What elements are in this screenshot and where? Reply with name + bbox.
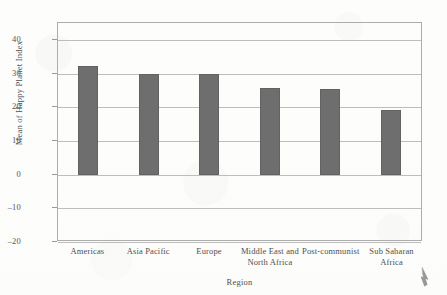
y-axis-tick-label: 40 (12, 35, 21, 44)
bar[interactable] (139, 74, 159, 174)
bar-slot (300, 23, 361, 240)
x-axis-category-line: Europe (179, 246, 240, 257)
x-axis-category-label: Europe (179, 246, 240, 268)
x-axis-tick-labels: AmericasAsia PacificEuropeMiddle East an… (57, 246, 422, 268)
bar[interactable] (199, 74, 219, 174)
bar-slot (179, 23, 240, 240)
x-axis-category-line: Asia Pacific (118, 246, 179, 257)
x-axis-category-label: Asia Pacific (118, 246, 179, 268)
x-axis-category-line: Africa (361, 257, 422, 268)
y-axis-tick-label: –10 (8, 203, 21, 212)
x-axis-category-label: Post-communist (300, 246, 361, 268)
x-axis-category-line: Middle East and (239, 246, 300, 257)
bar[interactable] (320, 89, 340, 175)
bar-slot (240, 23, 301, 240)
y-axis-tick-mark (52, 241, 57, 242)
bar-chart-figure: Mean of Happy Planet Index 403020100–10–… (0, 0, 447, 295)
y-axis-tick-label: 20 (12, 102, 21, 111)
bar[interactable] (78, 66, 98, 174)
gridline (58, 242, 421, 243)
y-axis-tick-label: 0 (17, 170, 21, 179)
bar-slot (119, 23, 180, 240)
bar-slot (58, 23, 119, 240)
y-axis-tick-label: –20 (8, 237, 21, 246)
x-axis-category-label: Sub SaharanAfrica (361, 246, 422, 268)
x-axis-category-line: Americas (57, 246, 118, 257)
x-axis-title: Region (57, 277, 422, 287)
y-axis-tick-label: 10 (12, 136, 21, 145)
y-axis-tick-label: 30 (12, 69, 21, 78)
bar-slot (361, 23, 422, 240)
x-axis-category-label: Middle East andNorth Africa (239, 246, 300, 268)
mouse-cursor-icon (419, 266, 433, 288)
bar[interactable] (260, 88, 280, 175)
x-axis-category-line: North Africa (239, 257, 300, 268)
x-axis-category-label: Americas (57, 246, 118, 268)
bar[interactable] (381, 110, 401, 175)
x-axis-category-line: Post-communist (300, 246, 361, 257)
plot-area (57, 22, 422, 241)
bar-series (58, 23, 421, 240)
x-axis-category-line: Sub Saharan (361, 246, 422, 257)
